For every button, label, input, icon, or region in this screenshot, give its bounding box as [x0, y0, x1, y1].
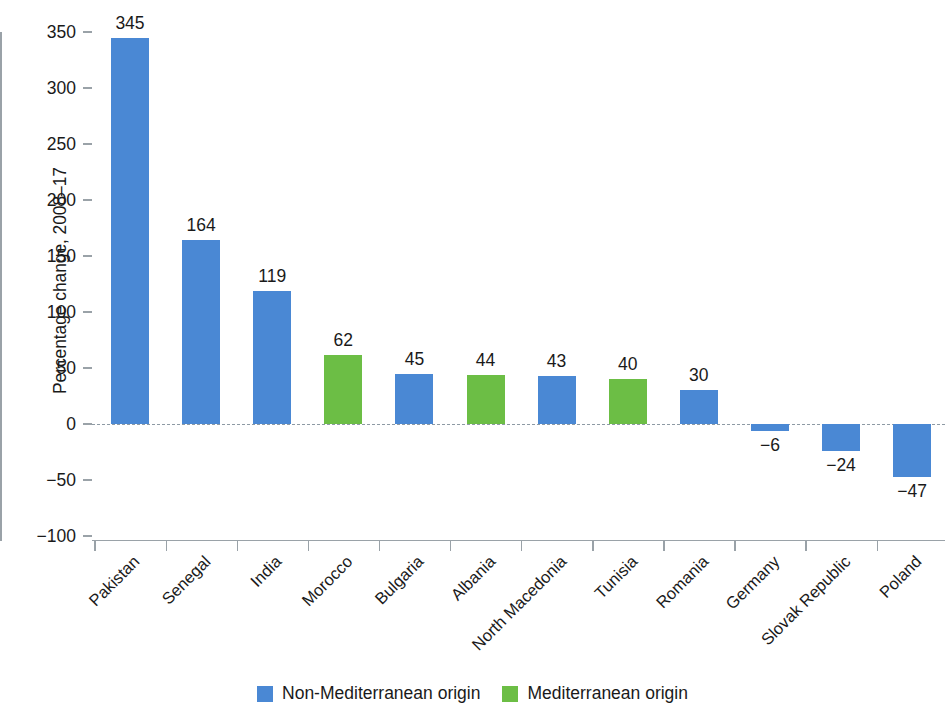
bar-value-label: 345: [90, 13, 170, 34]
bar-morocco[interactable]: [324, 355, 362, 424]
y-axis-title: Percentage change, 2008–17: [50, 121, 71, 441]
y-axis-tick-label: 150: [8, 246, 76, 267]
x-axis-tick: [521, 540, 522, 551]
bar-tunisia[interactable]: [609, 379, 647, 424]
bar-albania[interactable]: [467, 375, 505, 424]
bar-value-label: 40: [588, 354, 668, 375]
bar-value-label: 30: [659, 365, 739, 386]
legend-label: Non-Mediterranean origin: [282, 683, 480, 704]
bar-value-label: 62: [303, 330, 383, 351]
x-axis-tick: [592, 540, 593, 551]
y-axis-tick: [83, 535, 92, 537]
bar-value-label: −47: [872, 481, 945, 502]
bar-north-macedonia[interactable]: [538, 376, 576, 424]
legend-item-non-mediterranean[interactable]: Non-Mediterranean origin: [257, 683, 480, 704]
bar-value-label: 44: [446, 350, 526, 371]
y-axis-tick-label: 0: [8, 414, 76, 435]
y-axis-line: [0, 32, 2, 541]
bar-slovak-republic[interactable]: [822, 424, 860, 451]
x-axis-tick: [308, 540, 309, 551]
bar-senegal[interactable]: [182, 240, 220, 424]
bar-germany[interactable]: [751, 424, 789, 431]
bar-romania[interactable]: [680, 390, 718, 424]
y-axis-tick-label: 200: [8, 190, 76, 211]
y-axis-tick-label: 100: [8, 302, 76, 323]
bar-value-label: −6: [730, 435, 810, 456]
bar-value-label: 43: [517, 351, 597, 372]
y-axis-tick-label: −50: [8, 470, 76, 491]
bar-value-label: 45: [374, 349, 454, 370]
x-axis-tick: [379, 540, 380, 551]
y-axis-tick: [83, 423, 92, 425]
legend-label: Mediterranean origin: [527, 683, 688, 704]
bar-value-label: 164: [161, 215, 241, 236]
y-axis-tick: [83, 367, 92, 369]
zero-baseline: [92, 424, 945, 425]
x-axis-tick: [166, 540, 167, 551]
legend-swatch-icon: [257, 686, 273, 702]
x-axis-line: [92, 540, 945, 541]
x-axis-tick: [805, 540, 806, 551]
x-axis-tick: [877, 540, 878, 551]
y-axis-tick-label: 50: [8, 358, 76, 379]
bar-value-label: −24: [801, 455, 881, 476]
x-axis-tick: [734, 540, 735, 551]
y-axis-tick: [83, 87, 92, 89]
x-axis-tick: [663, 540, 664, 551]
y-axis-tick: [83, 311, 92, 313]
y-axis-tick-label: −100: [8, 526, 76, 547]
bar-pakistan[interactable]: [111, 38, 149, 424]
bar-poland[interactable]: [893, 424, 931, 477]
y-axis-tick-label: 300: [8, 78, 76, 99]
bar-bulgaria[interactable]: [395, 374, 433, 424]
x-axis-tick: [237, 540, 238, 551]
legend-item-mediterranean[interactable]: Mediterranean origin: [502, 683, 688, 704]
y-axis-tick: [83, 255, 92, 257]
bar-chart: Percentage change, 2008–17 3503002502001…: [0, 0, 945, 718]
x-axis-tick: [94, 540, 95, 551]
legend-swatch-icon: [502, 686, 518, 702]
y-axis-tick: [83, 479, 92, 481]
y-axis-tick: [83, 143, 92, 145]
y-axis-tick: [83, 199, 92, 201]
x-axis-tick: [450, 540, 451, 551]
y-axis-tick-label: 350: [8, 22, 76, 43]
bar-value-label: 119: [232, 266, 312, 287]
bar-india[interactable]: [253, 291, 291, 424]
legend: Non-Mediterranean originMediterranean or…: [0, 683, 945, 704]
y-axis-tick-label: 250: [8, 134, 76, 155]
